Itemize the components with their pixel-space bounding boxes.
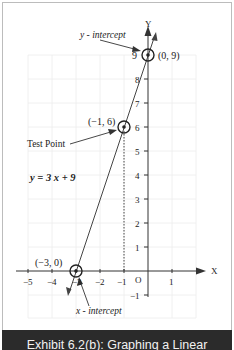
x-tick-m2: −2 bbox=[95, 277, 105, 287]
y-tick-9: 9 bbox=[132, 50, 137, 61]
y-tick-3: 3 bbox=[135, 195, 140, 205]
y-tick-1: 1 bbox=[135, 243, 140, 253]
x-tick-m3: −3 bbox=[72, 277, 82, 287]
linear-graph: Y X O −5 −4 −3 −2 −1 1 9 8 7 6 5 4 3 2 1… bbox=[0, 0, 234, 330]
y-tick-4: 4 bbox=[135, 171, 140, 181]
y-tick-m1: −1 bbox=[130, 291, 140, 301]
figure-caption: Exhibit 6.2(b): Graphing a Linear bbox=[2, 330, 232, 350]
plot-line bbox=[69, 35, 155, 293]
origin-label: O bbox=[135, 275, 142, 285]
x-tick-1: 1 bbox=[169, 277, 174, 287]
x-tick-m4: −4 bbox=[47, 277, 57, 287]
point-label-test: (−1, 6) bbox=[88, 116, 115, 128]
equation-label: y = 3 x + 9 bbox=[28, 172, 76, 183]
y-tick-8: 8 bbox=[135, 75, 140, 85]
x-axis-arrow-icon bbox=[196, 268, 206, 275]
x-tick-m5: −5 bbox=[23, 277, 33, 287]
test-point-label: Test Point bbox=[27, 139, 65, 149]
x-intercept-label: x - intercept bbox=[75, 306, 122, 316]
point-label-y-intercept: (0, 9) bbox=[158, 50, 180, 62]
x-axis-label: X bbox=[211, 266, 218, 276]
y-tick-6: 6 bbox=[135, 123, 140, 133]
y-intercept-label: y - intercept bbox=[79, 30, 126, 40]
y-axis-label: Y bbox=[145, 19, 152, 29]
y-tick-7: 7 bbox=[135, 99, 140, 109]
test-point-pointer bbox=[70, 131, 114, 144]
line-arrow-top-icon bbox=[152, 32, 158, 41]
y-tick-2: 2 bbox=[135, 219, 140, 229]
y-intercept-pointer bbox=[100, 40, 138, 50]
x-tick-m1: −1 bbox=[117, 277, 127, 287]
point-label-x-intercept: (−3, 0) bbox=[35, 257, 62, 269]
y-tick-5: 5 bbox=[135, 147, 140, 157]
